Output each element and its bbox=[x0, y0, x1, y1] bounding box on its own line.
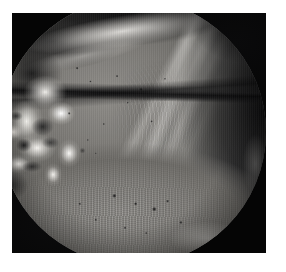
image-frame bbox=[0, 0, 286, 272]
vignette bbox=[12, 13, 266, 253]
circular-field-of-view bbox=[12, 13, 266, 253]
arthroscopic-photo-plate bbox=[12, 13, 266, 253]
